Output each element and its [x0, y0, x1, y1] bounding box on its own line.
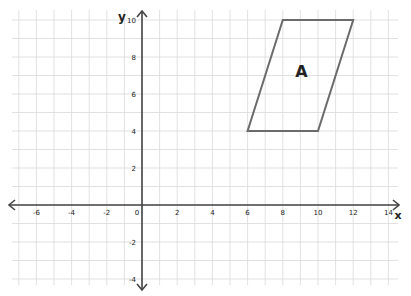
grid-lines	[12, 10, 398, 285]
y-axis-label: y	[118, 10, 126, 24]
coordinate-grid-diagram: xy -6-4-202468101214108642-2-4 A	[0, 0, 411, 296]
y-tick-label: -4	[129, 276, 137, 284]
x-tick-label: -6	[33, 209, 41, 217]
x-tick-label: 2	[175, 209, 179, 217]
x-tick-label: 8	[281, 209, 285, 217]
x-tick-label: 6	[245, 209, 250, 217]
y-tick-label: 8	[132, 54, 136, 62]
y-tick-label: 2	[132, 165, 136, 173]
y-tick-label: 4	[132, 128, 137, 136]
x-tick-label: 10	[314, 209, 323, 217]
y-tick-label: 10	[127, 17, 136, 25]
x-tick-label: 14	[384, 209, 393, 217]
x-tick-label: 12	[349, 209, 358, 217]
x-tick-label: -2	[103, 209, 110, 217]
shape-label: A	[295, 62, 308, 81]
y-tick-label: 6	[132, 91, 137, 99]
coordinate-plane: xy -6-4-202468101214108642-2-4 A	[0, 0, 411, 296]
y-tick-label: -2	[129, 239, 136, 247]
x-axis-label: x	[394, 209, 401, 222]
x-tick-label: 4	[210, 209, 215, 217]
x-tick-label: -4	[68, 209, 76, 217]
x-tick-label: 0	[135, 209, 139, 217]
